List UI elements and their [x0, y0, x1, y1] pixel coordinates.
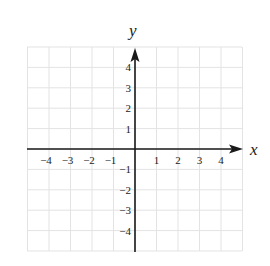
y-tick-label: 4	[126, 61, 132, 73]
y-tick-label: 3	[126, 82, 132, 94]
y-axis-label: y	[127, 21, 137, 40]
x-tick-label: 2	[175, 154, 181, 166]
x-tick-label: 3	[197, 154, 203, 166]
x-axis-label: x	[249, 140, 258, 159]
x-tick-label: −1	[105, 154, 117, 166]
y-tick-label: −4	[119, 225, 131, 237]
x-tick-label: −2	[83, 154, 95, 166]
axes	[27, 48, 243, 252]
y-tick-label: 1	[126, 123, 132, 135]
y-tick-label: −3	[119, 204, 131, 216]
y-tick-label: 2	[126, 102, 132, 114]
x-tick-label: 4	[218, 154, 224, 166]
x-tick-label: 1	[154, 154, 160, 166]
coordinate-plane: −4−3−2−11234 4321−1−2−3−4 x y	[0, 0, 270, 266]
x-tick-labels: −4−3−2−11234	[40, 154, 224, 166]
y-tick-label: −2	[119, 184, 131, 196]
x-tick-label: −4	[40, 154, 52, 166]
x-tick-label: −3	[62, 154, 74, 166]
y-tick-label: −1	[119, 163, 131, 175]
